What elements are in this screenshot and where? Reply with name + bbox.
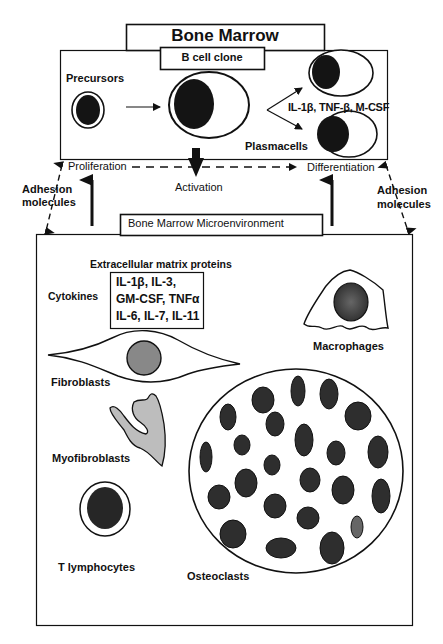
adhesion-left-line1: Adhesion <box>22 183 72 195</box>
plasmacell-top-icon <box>309 50 373 96</box>
fibroblasts-label: Fibroblasts <box>51 376 110 388</box>
t-lymphocytes-label: T lymphocytes <box>58 561 135 573</box>
ecm-label: Extracellular matrix proteins <box>90 258 232 270</box>
activated-b-cell-icon <box>169 72 249 138</box>
adhesion-left-line2: molecules <box>22 196 76 208</box>
precursors-label: Precursors <box>66 72 124 84</box>
adhesion-right-line2: molecules <box>377 198 431 210</box>
cytokine-item-1: IL-1β, IL-3, <box>116 275 176 289</box>
activation-label: Activation <box>175 181 223 193</box>
proliferation-label: Proliferation <box>68 160 127 172</box>
b-cell-clone-label: B cell clone <box>160 51 264 63</box>
microenvironment-header: Bone Marrow Microenvironment <box>128 217 284 229</box>
plasmacells-label: Plasmacells <box>245 140 308 152</box>
adhesion-right-line1: Adhesion <box>377 184 427 196</box>
myofibroblasts-label: Myofibroblasts <box>52 452 130 464</box>
osteoclasts-label: Osteoclasts <box>187 570 249 582</box>
diagram-title: Bone Marrow <box>126 26 324 46</box>
diagram-canvas <box>0 0 443 644</box>
macrophages-label: Macrophages <box>313 340 384 352</box>
t-lymphocyte-icon <box>80 482 130 536</box>
plasmacell-cytokines-label: IL-1β, TNF-β, M-CSF <box>288 101 389 113</box>
plasmacell-bottom-icon <box>317 111 377 157</box>
osteoclast-icon <box>189 369 403 573</box>
differentiation-label: Differentiation <box>307 161 375 173</box>
cytokines-label: Cytokines <box>48 290 98 302</box>
precursor-cell-icon <box>72 92 104 128</box>
cytokine-item-3: IL-6, IL-7, IL-11 <box>116 309 199 323</box>
cytokine-item-2: GM-CSF, TNFα <box>116 292 199 306</box>
